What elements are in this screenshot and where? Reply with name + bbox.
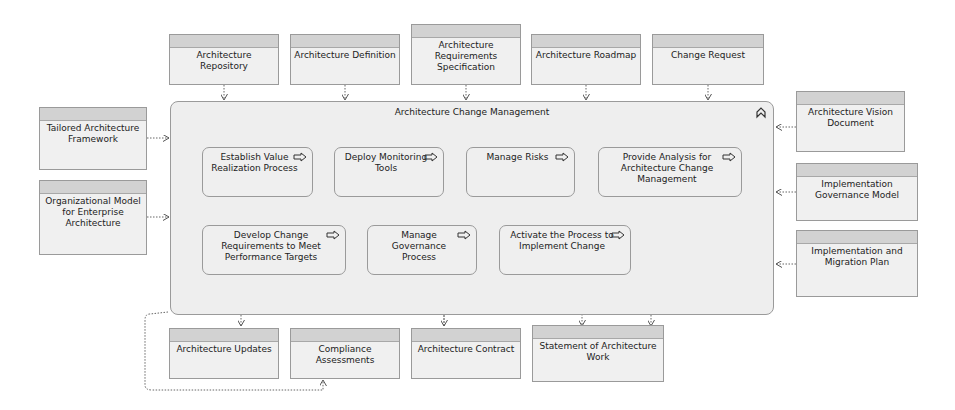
input-implementation-governance-model[interactable]: Implementation Governance Model bbox=[796, 163, 918, 221]
process-provide-analysis[interactable]: Provide Analysis for Architecture Change… bbox=[598, 147, 742, 197]
process-arrow-icon bbox=[457, 230, 471, 240]
object-label: Architecture Contract bbox=[412, 342, 520, 355]
input-architecture-requirements-specification[interactable]: Architecture Requirements Specification bbox=[411, 24, 521, 85]
object-header bbox=[797, 164, 917, 177]
process-arrow-icon bbox=[293, 152, 307, 162]
object-header bbox=[797, 231, 917, 244]
object-header bbox=[170, 329, 278, 342]
object-label: Tailored Architecture Framework bbox=[40, 121, 146, 145]
output-statement-of-architecture-work[interactable]: Statement of Architecture Work bbox=[532, 325, 664, 382]
input-tailored-architecture-framework[interactable]: Tailored Architecture Framework bbox=[39, 107, 147, 170]
object-header bbox=[291, 35, 399, 48]
input-organizational-model[interactable]: Organizational Model for Enterprise Arch… bbox=[39, 180, 147, 255]
process-develop-change-requirements[interactable]: Develop Change Requirements to Meet Perf… bbox=[202, 225, 346, 275]
process-arrow-icon bbox=[555, 152, 569, 162]
object-label: Implementation Governance Model bbox=[797, 177, 917, 201]
object-header bbox=[533, 326, 663, 339]
process-arrow-icon bbox=[326, 230, 340, 240]
input-implementation-and-migration-plan[interactable]: Implementation and Migration Plan bbox=[796, 230, 918, 297]
output-architecture-updates[interactable]: Architecture Updates bbox=[169, 328, 279, 379]
object-label: Compliance Assessments bbox=[291, 342, 399, 366]
input-change-request[interactable]: Change Request bbox=[652, 34, 764, 85]
object-header bbox=[40, 181, 146, 194]
object-label: Change Request bbox=[653, 48, 763, 61]
input-architecture-repository[interactable]: Architecture Repository bbox=[169, 34, 279, 85]
object-header bbox=[412, 25, 520, 38]
object-label: Organizational Model for Enterprise Arch… bbox=[40, 194, 146, 229]
object-label: Statement of Architecture Work bbox=[533, 339, 663, 363]
object-header bbox=[291, 329, 399, 342]
process-manage-risks[interactable]: Manage Risks bbox=[466, 147, 575, 197]
object-label: Architecture Vision Document bbox=[797, 105, 904, 129]
process-label: Develop Change Requirements to Meet Perf… bbox=[203, 226, 345, 263]
architecture-change-management-container[interactable]: Architecture Change Management bbox=[170, 101, 774, 315]
process-arrow-icon bbox=[722, 152, 736, 162]
object-label: Architecture Definition bbox=[291, 48, 399, 61]
container-title: Architecture Change Management bbox=[171, 107, 773, 117]
object-header bbox=[797, 92, 904, 105]
input-architecture-roadmap[interactable]: Architecture Roadmap bbox=[531, 34, 641, 85]
object-label: Implementation and Migration Plan bbox=[797, 244, 917, 268]
process-deploy-monitoring-tools[interactable]: Deploy Monitoring Tools bbox=[334, 147, 444, 197]
process-establish-value-realization[interactable]: Establish Value Realization Process bbox=[202, 147, 313, 197]
object-header bbox=[532, 35, 640, 48]
object-label: Architecture Updates bbox=[170, 342, 278, 355]
object-label: Architecture Roadmap bbox=[532, 48, 640, 61]
object-header bbox=[40, 108, 146, 121]
process-arrow-icon bbox=[424, 152, 438, 162]
object-header bbox=[412, 329, 520, 342]
process-label: Provide Analysis for Architecture Change… bbox=[599, 148, 741, 185]
process-activate-implement-change[interactable]: Activate the Process to Implement Change bbox=[499, 225, 631, 275]
object-header bbox=[170, 35, 278, 48]
object-header bbox=[653, 35, 763, 48]
process-manage-governance[interactable]: Manage Governance Process bbox=[367, 225, 477, 275]
object-label: Architecture Repository bbox=[170, 48, 278, 72]
object-label: Architecture Requirements Specification bbox=[412, 38, 520, 73]
output-architecture-contract[interactable]: Architecture Contract bbox=[411, 328, 521, 379]
input-architecture-vision-document[interactable]: Architecture Vision Document bbox=[796, 91, 905, 152]
process-arrow-icon bbox=[611, 230, 625, 240]
collapse-chevron-icon[interactable] bbox=[755, 107, 767, 119]
output-compliance-assessments[interactable]: Compliance Assessments bbox=[290, 328, 400, 379]
input-architecture-definition[interactable]: Architecture Definition bbox=[290, 34, 400, 85]
